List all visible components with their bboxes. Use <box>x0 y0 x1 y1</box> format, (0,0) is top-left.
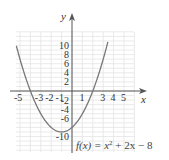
y-tick-label: -10 <box>56 131 69 142</box>
grid <box>16 32 134 152</box>
x-tick-label: 4 <box>111 92 116 103</box>
x-tick-label: -5 <box>14 92 22 103</box>
function-graph: x y -5-3-2-11345 108642-2-4-6-10 f(x) = … <box>0 0 169 160</box>
x-tick-label: -3 <box>35 92 43 103</box>
y-tick-label: 2 <box>64 76 69 87</box>
function-label: f(x) = x2 + 2x − 8 <box>76 139 153 152</box>
x-axis-label: x <box>140 93 146 105</box>
y-tick-label: -6 <box>61 113 69 124</box>
x-tick-label: -2 <box>45 92 53 103</box>
x-tick-label: 5 <box>121 92 126 103</box>
x-tick-label: 3 <box>100 92 105 103</box>
y-axis-label: y <box>60 10 66 22</box>
x-tick-label: 1 <box>79 92 84 103</box>
